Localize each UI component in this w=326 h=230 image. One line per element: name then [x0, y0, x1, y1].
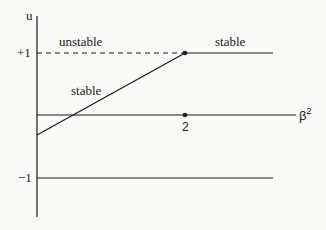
u-axis-label: u: [26, 9, 33, 22]
bifurcation-point-axis: [183, 113, 188, 118]
tick-label-two: 2: [182, 121, 189, 133]
beta-exponent: 2: [306, 106, 311, 116]
tick-label-minus-one: −1: [18, 171, 32, 184]
region-label-stable-slanted: stable: [71, 84, 101, 97]
region-label-stable-upper: stable: [215, 35, 245, 48]
beta-squared-label: β2: [299, 109, 312, 122]
bifurcation-diagram: [0, 0, 326, 230]
region-label-unstable: unstable: [59, 35, 102, 48]
stable-branch-slanted: [37, 53, 185, 135]
tick-label-plus-one: +1: [17, 46, 31, 59]
bifurcation-point-upper: [183, 51, 188, 56]
